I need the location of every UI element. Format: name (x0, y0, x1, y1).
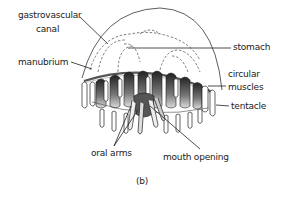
label-gastrovascular-line1: gastrovascular (18, 10, 82, 21)
label-tentacle: tentacle (231, 101, 266, 112)
label-manubrium: manubrium (18, 57, 68, 68)
label-oral-arms: oral arms (91, 148, 132, 159)
label-stomach: stomach (233, 42, 270, 53)
label-circular-line2: muscles (228, 82, 263, 93)
jellyfish-diagram: gastrovascular canal manubrium stomach c… (0, 0, 288, 197)
gastrovascular-canals (90, 30, 200, 72)
label-gastrovascular-line2: canal (36, 24, 59, 35)
figure-caption: (b) (136, 176, 148, 187)
label-mouth-opening: mouth opening (163, 152, 229, 163)
label-circular-line1: circular (228, 69, 260, 80)
